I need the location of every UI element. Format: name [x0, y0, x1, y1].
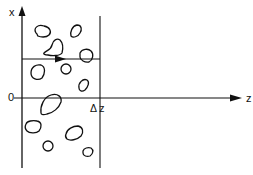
- ray-line: [22, 56, 100, 63]
- particle: [44, 39, 63, 55]
- ray-arrow-icon: [55, 56, 66, 63]
- particle: [79, 80, 89, 91]
- x-axis-label: x: [9, 7, 15, 18]
- particle: [65, 126, 82, 140]
- particle: [61, 64, 71, 74]
- particle: [35, 25, 50, 37]
- x-axis-arrow-icon: [19, 6, 26, 16]
- origin-label: 0: [8, 92, 14, 103]
- particle: [80, 49, 93, 62]
- x-axis: [19, 6, 26, 168]
- particle: [71, 25, 81, 37]
- particle: [31, 65, 45, 80]
- diagram-canvas: [0, 0, 253, 175]
- particle: [25, 121, 41, 133]
- z-axis-label: z: [246, 93, 252, 104]
- particle: [43, 141, 53, 151]
- delta-z-label: Δ z: [90, 103, 105, 114]
- z-axis-arrow-icon: [230, 95, 242, 102]
- particle: [83, 148, 93, 157]
- particles: [25, 25, 92, 156]
- slab-scattering-diagram: x z 0 Δ z: [0, 0, 253, 175]
